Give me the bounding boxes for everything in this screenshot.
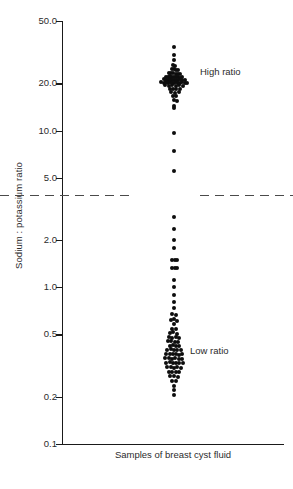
data-point <box>175 258 179 262</box>
data-point <box>172 300 176 304</box>
data-point <box>172 306 176 310</box>
y-tick-mark <box>56 397 62 398</box>
data-point <box>172 45 176 49</box>
plot-area <box>0 0 293 489</box>
data-point <box>172 246 176 250</box>
y-tick-mark <box>56 131 62 132</box>
data-point <box>172 322 176 326</box>
data-point <box>172 393 176 397</box>
data-point <box>175 266 179 270</box>
y-tick-mark <box>56 287 62 288</box>
reference-line-segment <box>200 195 293 197</box>
data-point <box>174 313 178 317</box>
data-point <box>185 81 189 85</box>
data-point <box>180 357 184 361</box>
data-point <box>172 131 176 135</box>
annotation-high-ratio: High ratio <box>200 66 241 77</box>
data-point <box>172 293 176 297</box>
data-point <box>172 238 176 242</box>
data-point <box>175 99 179 103</box>
data-point <box>172 388 176 392</box>
data-point <box>172 384 176 388</box>
annotation-low-ratio: Low ratio <box>190 345 229 356</box>
data-point <box>181 361 185 365</box>
data-point <box>172 149 176 153</box>
data-point <box>174 379 178 383</box>
y-tick-mark <box>56 444 62 445</box>
y-tick-mark <box>56 178 62 179</box>
data-point <box>172 58 176 62</box>
data-point <box>172 278 176 282</box>
data-point <box>172 285 176 289</box>
data-point <box>172 215 176 219</box>
data-point <box>172 227 176 231</box>
y-tick-mark <box>56 240 62 241</box>
data-point <box>172 106 176 110</box>
x-axis-label: Samples of breast cyst fluid <box>62 449 284 460</box>
data-point <box>172 53 176 57</box>
scatter-chart: Sodium : potassium ratio 50.020.010.05.0… <box>0 0 293 489</box>
data-point <box>172 169 176 173</box>
reference-line-segment <box>0 195 133 197</box>
y-tick-mark <box>56 21 62 22</box>
data-point <box>177 90 181 94</box>
data-point <box>177 370 181 374</box>
y-tick-mark <box>56 334 62 335</box>
data-point <box>180 352 184 356</box>
y-tick-mark <box>56 83 62 84</box>
